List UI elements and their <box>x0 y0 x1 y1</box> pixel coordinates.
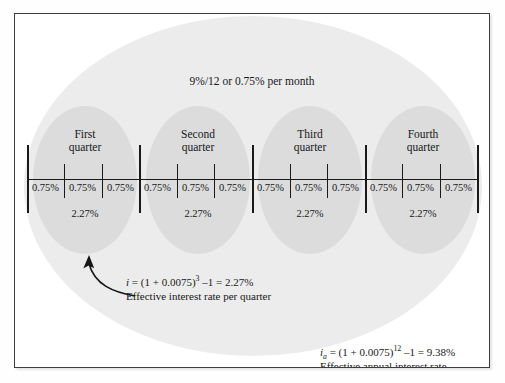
quarter-label-3-line1: Third <box>258 128 362 141</box>
month-rate-6: 0.75% <box>214 182 251 193</box>
quarter-tick-4 <box>477 145 479 213</box>
nominal-rate-note: 9%/12 or 0.75% per month <box>15 75 489 87</box>
month-rate-8: 0.75% <box>290 182 327 193</box>
quarter-label-3-line2: quarter <box>258 141 362 154</box>
month-rate-1: 0.75% <box>27 182 64 193</box>
month-rate-4: 0.75% <box>139 182 176 193</box>
annual-rate-formula-tail: –1 = 9.38% <box>401 346 455 358</box>
month-rate-10: 0.75% <box>365 182 402 193</box>
quarter-label-2: Second quarter <box>146 128 250 154</box>
figure-frame: 9%/12 or 0.75% per month First quarter S… <box>14 13 490 368</box>
month-rate-9: 0.75% <box>327 182 364 193</box>
quarter-label-4-line1: Fourth <box>371 128 475 141</box>
month-rate-5: 0.75% <box>177 182 214 193</box>
annual-rate-annotation: ia = (1 + 0.0075)12 –1 = 9.38% Effective… <box>320 346 455 368</box>
month-rate-7: 0.75% <box>252 182 289 193</box>
quarter-rate-formula-head: = (1 + 0.0075) <box>129 276 195 288</box>
quarter-label-4: Fourth quarter <box>371 128 475 154</box>
quarter-label-1-line1: First <box>33 128 137 141</box>
quarter-label-4-line2: quarter <box>371 141 475 154</box>
month-rate-12: 0.75% <box>440 182 477 193</box>
annual-rate-formula: ia = (1 + 0.0075)12 –1 = 9.38% <box>320 346 455 360</box>
annual-rate-formula-head: = (1 + 0.0075) <box>327 346 393 358</box>
quarter-rate-formula: i = (1 + 0.0075)3 –1 = 2.27% <box>126 276 271 290</box>
quarter-rate-annotation: i = (1 + 0.0075)3 –1 = 2.27% Effective i… <box>126 276 271 303</box>
quarter-label-2-line2: quarter <box>146 141 250 154</box>
annual-rate-caption: Effective annual interest rate <box>320 360 455 369</box>
quarter-effective-rate-4: 2.27% <box>371 208 475 219</box>
quarter-effective-rate-2: 2.27% <box>146 208 250 219</box>
quarter-effective-rate-3: 2.27% <box>258 208 362 219</box>
month-rate-11: 0.75% <box>402 182 439 193</box>
quarter-rate-caption: Effective interest rate per quarter <box>126 290 271 304</box>
month-rate-3: 0.75% <box>102 182 139 193</box>
quarter-rate-formula-tail: –1 = 2.27% <box>200 276 254 288</box>
quarter-label-2-line1: Second <box>146 128 250 141</box>
quarter-effective-rate-1: 2.27% <box>33 208 137 219</box>
quarter-label-1-line2: quarter <box>33 141 137 154</box>
quarter-label-3: Third quarter <box>258 128 362 154</box>
interest-rate-diagram: 9%/12 or 0.75% per month First quarter S… <box>0 0 505 383</box>
quarter-tick-3 <box>365 145 367 213</box>
quarter-tick-0 <box>27 145 29 213</box>
month-rate-2: 0.75% <box>64 182 101 193</box>
quarter-tick-1 <box>139 145 141 213</box>
quarter-label-1: First quarter <box>33 128 137 154</box>
quarter-tick-2 <box>252 145 254 213</box>
